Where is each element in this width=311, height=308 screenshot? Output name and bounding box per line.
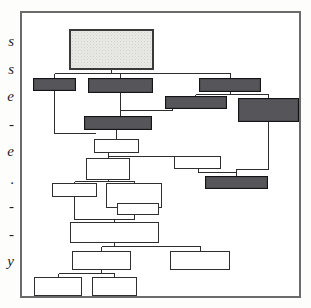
margin-glyph: y xyxy=(0,248,16,276)
flow-node-label xyxy=(71,31,152,68)
flow-node-label xyxy=(71,223,158,242)
flow-node[interactable] xyxy=(117,203,159,215)
margin-glyph: . xyxy=(0,166,16,194)
flow-node-label xyxy=(200,79,260,91)
flow-node[interactable] xyxy=(205,176,268,189)
flow-node-label xyxy=(85,117,151,129)
flow-node[interactable] xyxy=(52,183,97,197)
margin-text-fragment: s s e - e . - - y xyxy=(0,28,16,300)
flow-node-label xyxy=(175,157,220,168)
margin-glyph: - xyxy=(0,221,16,249)
flow-node[interactable] xyxy=(170,251,230,270)
flow-node-label xyxy=(171,252,229,269)
margin-glyph: - xyxy=(0,193,16,221)
flow-node[interactable] xyxy=(199,78,261,92)
flow-node[interactable] xyxy=(92,277,137,296)
flow-node-label xyxy=(89,79,152,92)
scanned-page: s s e - e . - - y xyxy=(0,0,311,308)
flow-node-label xyxy=(34,79,75,90)
flow-node[interactable] xyxy=(33,78,76,91)
connector-lines xyxy=(22,13,299,296)
flow-node-root[interactable] xyxy=(69,29,154,70)
flow-node-label xyxy=(239,99,298,121)
flow-node[interactable] xyxy=(165,96,227,109)
flow-node[interactable] xyxy=(88,78,153,93)
flow-node-label xyxy=(35,278,81,295)
flow-node-label xyxy=(166,97,226,108)
flowchart-canvas xyxy=(22,13,299,296)
flow-node[interactable] xyxy=(84,116,152,130)
flow-node-label xyxy=(93,278,136,295)
flow-node-label xyxy=(95,140,138,152)
margin-glyph: e xyxy=(0,83,16,111)
flow-node[interactable] xyxy=(86,158,130,180)
margin-glyph: s xyxy=(0,56,16,84)
flow-node-label xyxy=(206,177,267,188)
flow-node[interactable] xyxy=(238,98,299,122)
flow-node[interactable] xyxy=(34,277,82,296)
flow-node[interactable] xyxy=(174,156,221,169)
flow-node[interactable] xyxy=(70,222,159,243)
margin-glyph: - xyxy=(0,111,16,139)
flow-node-label xyxy=(118,204,158,214)
margin-glyph: s xyxy=(0,28,16,56)
flow-node-label xyxy=(87,159,129,179)
flow-node-label xyxy=(73,252,130,269)
flow-node-label xyxy=(53,184,96,196)
margin-glyph: e xyxy=(0,138,16,166)
flow-node[interactable] xyxy=(94,139,139,153)
figure-frame xyxy=(20,11,301,298)
flow-node[interactable] xyxy=(72,251,131,270)
